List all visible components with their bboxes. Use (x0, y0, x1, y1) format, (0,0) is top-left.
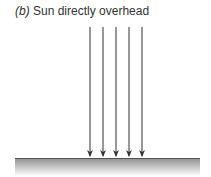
sunlight-diagram (0, 0, 211, 177)
ground-surface (15, 158, 200, 176)
sun-rays (87, 27, 145, 157)
